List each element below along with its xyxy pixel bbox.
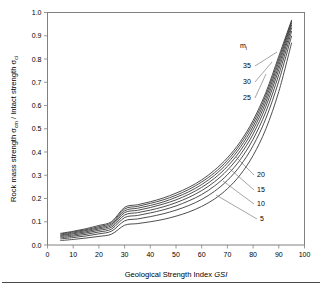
y-tick-label: 0.4	[32, 149, 42, 156]
x-axis-title: Geological Strength Index GSI	[125, 270, 228, 279]
x-tick-label: 30	[121, 251, 129, 258]
chart-figure: 0102030405060708090100 0.00.10.20.30.40.…	[0, 0, 322, 289]
series-label-mi-15: 15	[257, 186, 265, 193]
y-tick-label: 0.3	[32, 172, 42, 179]
x-tick-label: 90	[275, 251, 283, 258]
x-tick-label: 70	[224, 251, 232, 258]
y-tick-label: 0.9	[32, 32, 42, 39]
series-label-mi-5: 5	[260, 215, 264, 222]
series-label-mi-30: 30	[243, 78, 251, 85]
x-tick-label: 80	[249, 251, 257, 258]
x-tick-label: 20	[95, 251, 103, 258]
x-tick-label: 0	[46, 251, 50, 258]
x-tick-label: 50	[172, 251, 180, 258]
x-tick-label: 60	[198, 251, 206, 258]
y-tick-label: 0.0	[32, 242, 42, 249]
series-label-mi-35: 35	[243, 62, 251, 69]
y-tick-label: 0.1	[32, 218, 42, 225]
chart-background	[0, 0, 322, 289]
rock-mass-strength-chart: 0102030405060708090100 0.00.10.20.30.40.…	[0, 0, 322, 289]
y-tick-label: 0.8	[32, 56, 42, 63]
y-tick-label: 0.7	[32, 79, 42, 86]
y-tick-label: 1.0	[32, 9, 42, 16]
series-label-mi-25: 25	[243, 94, 251, 101]
series-label-mi-10: 10	[257, 200, 265, 207]
x-tick-label: 10	[69, 251, 77, 258]
x-tick-label: 100	[299, 251, 311, 258]
y-tick-label: 0.2	[32, 195, 42, 202]
x-tick-label: 40	[146, 251, 154, 258]
y-tick-label: 0.5	[32, 125, 42, 132]
y-tick-label: 0.6	[32, 102, 42, 109]
series-label-mi-20: 20	[257, 171, 265, 178]
y-axis-title: Rock mass strength σcm / Intact strength…	[9, 56, 19, 202]
